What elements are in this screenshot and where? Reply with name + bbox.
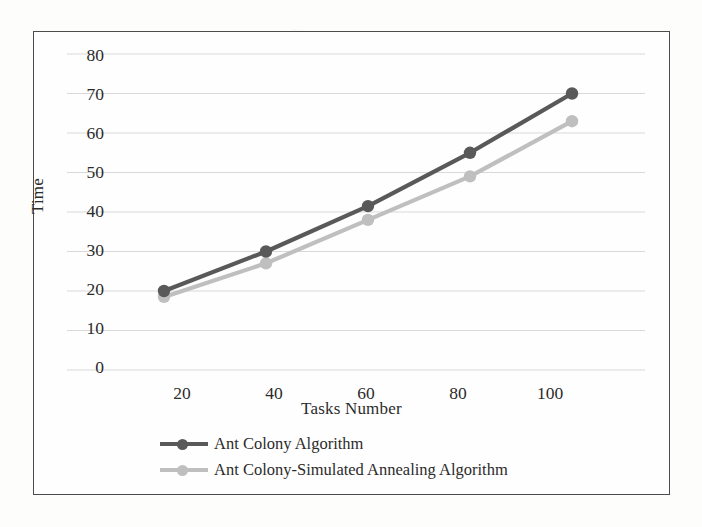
data-point-marker [362,214,374,226]
y-tick-label: 50 [64,162,104,183]
y-axis-title: Time [28,178,48,214]
x-tick-label: 100 [530,383,570,404]
legend-item[interactable]: Ant Colony Algorithm [160,431,580,457]
data-point-marker [566,87,578,99]
y-tick-label: 70 [64,84,104,105]
data-point-marker [260,245,272,257]
line-chart-plot [34,32,669,494]
legend-item[interactable]: Ant Colony-Simulated Annealing Algorithm [160,457,580,483]
y-tick-label: 40 [64,201,104,222]
y-tick-label: 30 [64,240,104,261]
x-axis-title: Tasks Number [301,399,402,419]
data-point-marker [158,285,170,297]
legend-label: Ant Colony-Simulated Annealing Algorithm [214,460,508,480]
y-tick-label: 60 [64,123,104,144]
data-point-marker [566,115,578,127]
data-point-marker [260,257,272,269]
series-group [158,87,578,303]
series-line [164,94,572,292]
legend-marker-icon [160,463,208,477]
x-tick-label: 40 [254,383,294,404]
chart-frame: 80 70 60 50 40 30 20 10 0 20 40 60 80 10… [33,31,670,495]
legend-label: Ant Colony Algorithm [214,434,363,454]
data-point-marker [464,147,476,159]
y-tick-label: 80 [64,45,104,66]
y-tick-label: 10 [64,318,104,339]
data-point-marker [362,200,374,212]
chart-legend: Ant Colony Algorithm Ant Colony-Simulate… [160,431,580,483]
x-tick-label: 80 [438,383,478,404]
y-tick-label: 20 [64,279,104,300]
y-tick-label: 0 [64,357,104,378]
figure-container: 80 70 60 50 40 30 20 10 0 20 40 60 80 10… [0,0,702,527]
x-tick-label: 20 [162,383,202,404]
data-point-marker [464,170,476,182]
legend-marker-icon [160,437,208,451]
